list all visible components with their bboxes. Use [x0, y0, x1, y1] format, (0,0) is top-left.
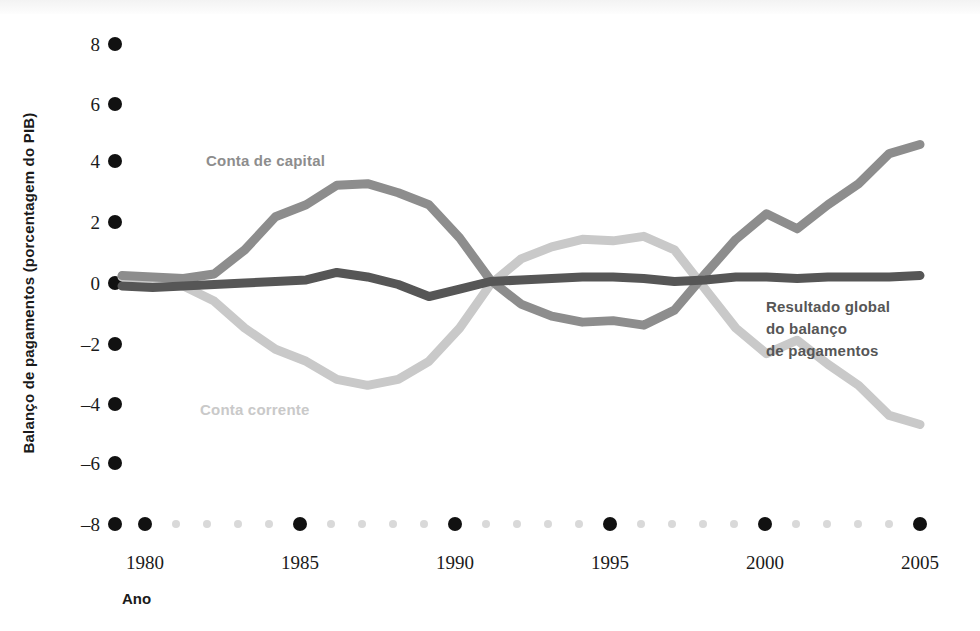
x-tick-dot-2005 [913, 517, 927, 531]
x-axis-major-dots [138, 517, 927, 531]
balance-of-payments-chart: Balanço de pagamentos (porcentagem do PI… [0, 0, 980, 631]
x-tick-dot-1980 [138, 517, 152, 531]
y-tick-label-4: 4 [91, 151, 101, 172]
x-axis-minor-dots [172, 520, 893, 528]
y-tick-dot-minus6 [108, 456, 122, 470]
y-tick-dot-minus4 [108, 397, 122, 411]
x-tick-dot-2000 [758, 517, 772, 531]
series-label-conta-de-capital: Conta de capital [206, 152, 325, 169]
x-tick-label-1990: 1990 [436, 552, 474, 573]
series-label-resultado-global-line3: de pagamentos [766, 342, 879, 359]
y-tick-label-minus8: –8 [80, 514, 100, 535]
x-tick-label-1985: 1985 [281, 552, 319, 573]
y-tick-label-2: 2 [91, 212, 101, 233]
y-tick-dot-6 [108, 97, 122, 111]
x-axis-title: Ano [122, 590, 151, 607]
series-lines [122, 145, 920, 425]
x-tick-dot-1995 [603, 517, 617, 531]
y-tick-dot-minus8 [108, 517, 122, 531]
y-axis-title: Balanço de pagamentos (porcentagem do PI… [20, 113, 37, 454]
y-tick-dot-2 [108, 215, 122, 229]
y-tick-label-minus6: –6 [80, 453, 100, 474]
y-tick-dot-8 [108, 37, 122, 51]
y-axis-tick-labels: 8 6 4 2 0 –2 –4 –6 –8 [80, 34, 101, 535]
x-tick-dot-1990 [448, 517, 462, 531]
series-label-resultado-global-line1: Resultado global [766, 298, 890, 315]
series-line-resultado-global [122, 272, 920, 296]
y-tick-label-6: 6 [91, 94, 101, 115]
y-tick-label-minus4: –4 [80, 394, 101, 415]
x-tick-label-2005: 2005 [901, 552, 939, 573]
chart-page: Balanço de pagamentos (porcentagem do PI… [0, 0, 980, 631]
y-tick-label-0: 0 [91, 273, 101, 294]
series-label-conta-corrente: Conta corrente [200, 401, 310, 418]
y-tick-dot-4 [108, 154, 122, 168]
x-tick-label-1980: 1980 [126, 552, 164, 573]
x-tick-label-1995: 1995 [591, 552, 629, 573]
y-tick-label-minus2: –2 [80, 334, 100, 355]
x-tick-label-2000: 2000 [746, 552, 784, 573]
series-label-resultado-global: Resultado global do balanço de pagamento… [766, 298, 890, 359]
x-tick-dot-1985 [293, 517, 307, 531]
series-label-resultado-global-line2: do balanço [766, 320, 847, 337]
y-tick-dot-minus2 [108, 337, 122, 351]
y-tick-label-8: 8 [91, 34, 101, 55]
x-axis-tick-labels: 1980 1985 1990 1995 2000 2005 [126, 552, 939, 573]
